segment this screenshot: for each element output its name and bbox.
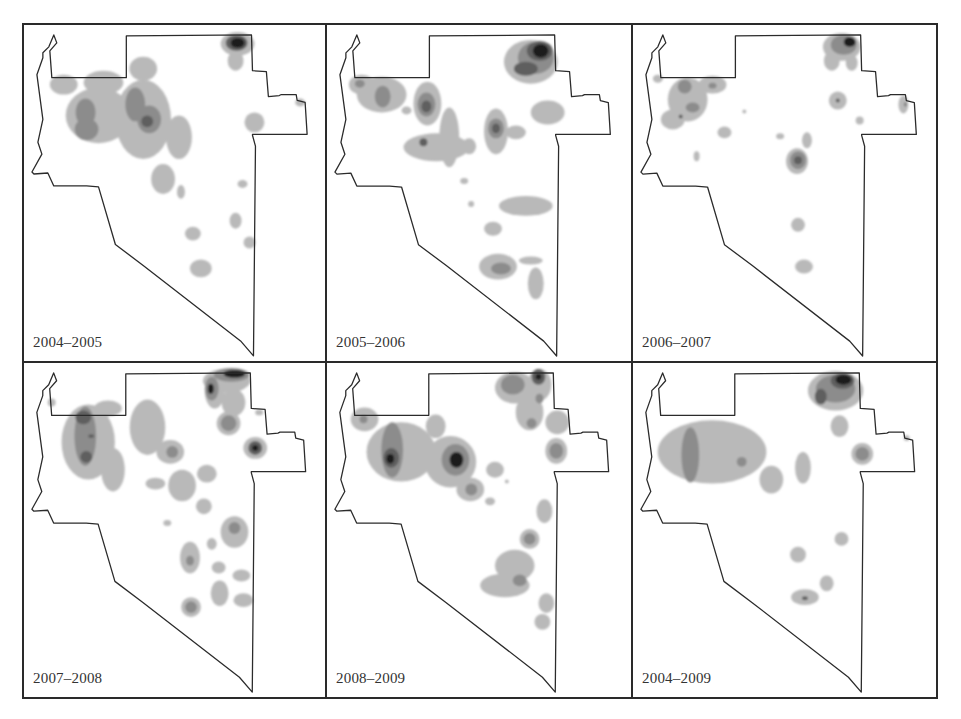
density-blob: [737, 457, 747, 467]
density-blob: [846, 55, 858, 71]
density-blob: [360, 415, 368, 423]
density-blob: [129, 57, 157, 81]
density-blob: [533, 44, 549, 58]
density-blob: [836, 99, 840, 103]
density-blob: [505, 480, 509, 484]
density-blob: [536, 499, 552, 523]
map-canvas: [327, 25, 631, 361]
density-blob: [535, 614, 551, 630]
density-blob: [528, 268, 544, 300]
density-blob: [485, 497, 495, 505]
density-blob: [486, 462, 504, 478]
density-blob: [538, 593, 554, 613]
density-blob: [185, 601, 197, 613]
density-blob: [794, 156, 802, 164]
density-blob: [426, 414, 446, 438]
density-blob: [791, 218, 805, 232]
density-blob: [208, 384, 214, 394]
density-blob: [404, 133, 470, 161]
density-blob: [836, 375, 852, 385]
density-blob: [527, 418, 537, 428]
density-blob: [207, 538, 217, 550]
density-blob: [238, 180, 248, 188]
density-blob: [48, 399, 56, 407]
density-blob: [255, 409, 263, 415]
map-canvas: [24, 25, 325, 361]
density-blob: [233, 593, 253, 607]
density-blob: [491, 263, 511, 275]
region-outline: [641, 373, 915, 692]
density-blob: [402, 107, 412, 115]
density-blob: [658, 420, 767, 483]
density-blob: [484, 222, 502, 236]
density-blob: [904, 103, 906, 107]
density-blob: [835, 532, 849, 546]
density-blob: [88, 434, 94, 438]
density-blob: [506, 125, 526, 139]
density-blob: [536, 394, 544, 404]
density-blob: [186, 556, 194, 566]
density-blob: [468, 201, 474, 207]
density-blob: [386, 454, 394, 464]
density-blob: [375, 86, 391, 108]
density-blob: [499, 196, 553, 216]
density-blob: [717, 126, 731, 138]
density-blob: [524, 533, 536, 545]
period-label: 2004–2005: [33, 334, 102, 351]
period-label: 2007–2008: [33, 670, 102, 687]
density-blob: [233, 570, 251, 582]
density-blob: [513, 574, 527, 586]
density-blob: [146, 478, 166, 490]
density-blob: [101, 448, 125, 491]
map-canvas: [633, 25, 936, 361]
density-blob: [686, 103, 700, 113]
density-blob: [694, 151, 700, 161]
density-blob: [492, 123, 500, 133]
density-blob: [229, 522, 241, 534]
map-panel: 2004–2005: [24, 25, 327, 363]
map-panel: 2008–2009: [327, 363, 633, 697]
density-blob: [168, 470, 196, 502]
density-blob: [462, 138, 476, 154]
density-blob: [776, 133, 784, 139]
density-blob: [439, 108, 459, 168]
density-blob: [151, 164, 175, 194]
density-blob: [514, 62, 538, 76]
density-blob: [790, 547, 806, 563]
map-panel: 2006–2007: [633, 25, 936, 363]
density-blob: [898, 96, 908, 114]
density-blob: [856, 116, 864, 124]
map-grid: 2004–2005 2005–2006 2006–2007 2007–2008 …: [22, 23, 938, 699]
map-canvas: [24, 363, 325, 697]
period-label: 2006–2007: [642, 334, 711, 351]
density-blob: [759, 466, 783, 494]
period-label: 2005–2006: [336, 334, 405, 351]
density-blob: [75, 410, 91, 424]
density-blob: [221, 415, 237, 431]
density-blob: [212, 562, 226, 574]
map-panel: 2004–2009: [633, 363, 936, 697]
density-blob: [211, 580, 229, 606]
density-blob: [355, 80, 365, 88]
density-blob: [196, 498, 212, 514]
period-label: 2004–2009: [642, 670, 711, 687]
density-blob: [465, 484, 477, 496]
density-blob: [231, 38, 245, 48]
map-canvas: [327, 363, 631, 697]
density-blob: [795, 260, 813, 274]
density-blob: [244, 237, 256, 249]
density-blob: [460, 178, 468, 184]
density-blob: [681, 427, 699, 482]
density-blob: [190, 259, 212, 277]
density-blob: [795, 452, 811, 484]
map-panel: 2005–2006: [327, 25, 633, 363]
density-blob: [815, 389, 827, 405]
density-blob: [661, 109, 685, 129]
density-blob: [844, 37, 856, 47]
density-blob: [75, 118, 99, 140]
density-blob: [166, 446, 178, 458]
map-panel: 2007–2008: [24, 363, 327, 697]
density-blob: [501, 375, 525, 395]
density-blob: [419, 138, 427, 146]
density-blob: [185, 227, 201, 241]
